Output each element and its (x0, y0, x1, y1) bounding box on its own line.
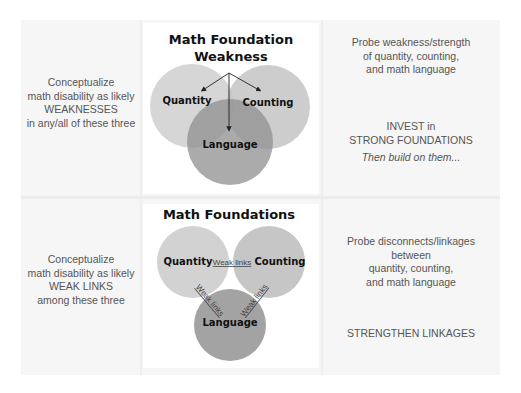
bottom-right-probe-line1: Probe disconnects/linkages (322, 235, 500, 249)
bottom-right-action: STRENGTHEN LINKAGES (322, 327, 500, 341)
bottom-right-probe-line2: between (322, 249, 500, 263)
counting-label-bottom: Counting (255, 256, 306, 267)
bottom-diagram-title: Math Foundations (163, 207, 295, 222)
language-label-bottom: Language (202, 317, 257, 328)
weak-link-quantity-counting: Weak links (213, 258, 252, 267)
bottom-right-probe-line4: and math language (322, 276, 500, 290)
bottom-right-action-text: STRENGTHEN LINKAGES (322, 327, 500, 341)
quantity-label-bottom: Quantity (164, 256, 213, 267)
bottom-right-description: Probe disconnects/linkages between quant… (322, 235, 500, 289)
bottom-right-probe-line3: quantity, counting, (322, 262, 500, 276)
